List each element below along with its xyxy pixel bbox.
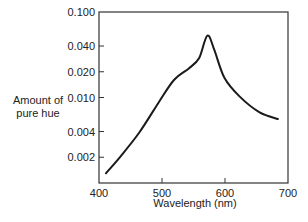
x-tick-label: 400	[90, 187, 108, 199]
y-tick-label: 0.100	[67, 6, 95, 18]
y-tick-label: 0.020	[67, 66, 95, 78]
y-axis-title-line1: Amount of	[13, 94, 64, 106]
y-axis-title-line2: pure hue	[16, 107, 59, 119]
y-tick-label: 0.004	[67, 126, 95, 138]
plot-frame	[99, 12, 288, 183]
y-tick-label: 0.010	[67, 92, 95, 104]
y-tick-label: 0.040	[67, 40, 95, 52]
x-tick-label: 700	[279, 187, 297, 199]
x-axis-title: Wavelength (nm)	[153, 197, 236, 209]
data-line	[106, 35, 278, 173]
chart: 0.1000.0400.0200.0100.0040.002 400500600…	[0, 0, 308, 222]
y-tick-label: 0.002	[67, 151, 95, 163]
x-axis-ticks: 400500600700	[90, 178, 297, 199]
